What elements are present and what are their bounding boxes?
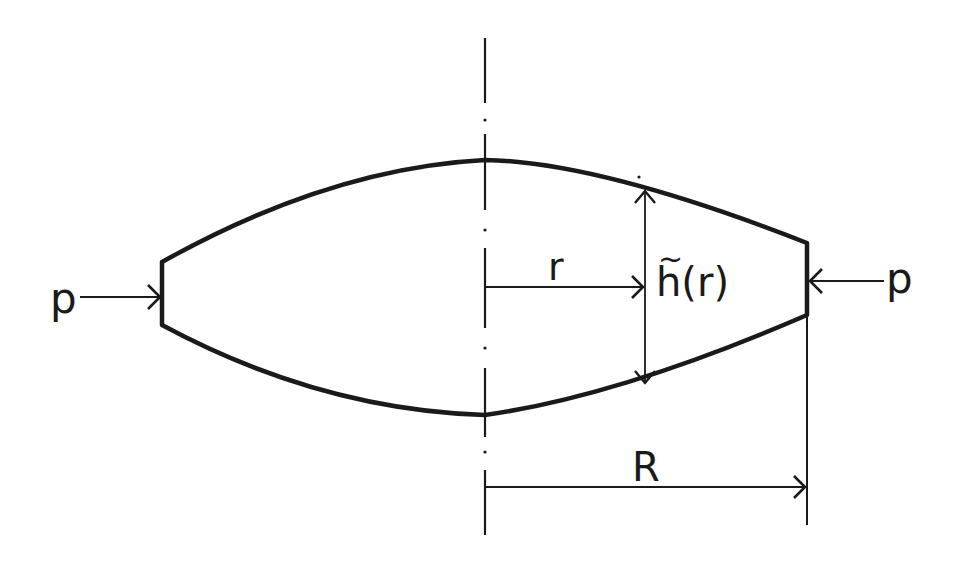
pressure-label-left: p [50, 278, 77, 320]
dimension-r-arrow [485, 276, 643, 298]
pressure-label-right: p [886, 258, 913, 300]
load-arrow-right [810, 269, 884, 293]
thickness-function-arg: (r) [681, 259, 729, 305]
tilde-accent: ~ [658, 244, 683, 274]
thickness-function-label: ~h(r) [656, 262, 729, 302]
dimension-R-arrow [485, 315, 807, 525]
outer-radius-label: R [632, 447, 660, 487]
load-arrow-left [80, 285, 160, 309]
dimension-h-arrow [635, 175, 655, 383]
lens-pressure-diagram [0, 0, 955, 575]
radius-variable-label: r [548, 248, 564, 286]
